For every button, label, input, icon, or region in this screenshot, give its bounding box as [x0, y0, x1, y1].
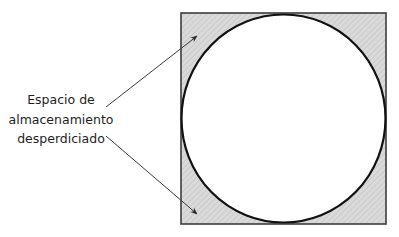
label-line-2: almacenamiento: [0, 110, 122, 130]
inscribed-circle: [182, 15, 386, 223]
label-line-3: desperdiciado: [0, 129, 122, 149]
wasted-space-label: Espacio de almacenamiento desperdiciado: [0, 90, 122, 149]
label-line-1: Espacio de: [0, 90, 122, 110]
